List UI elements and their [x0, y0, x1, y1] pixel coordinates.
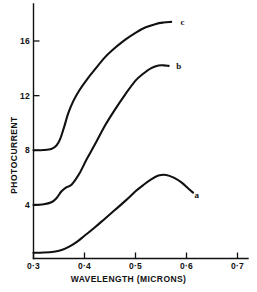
chart-axes [34, 4, 249, 259]
chart-data-curves [34, 22, 194, 253]
x-tick-label: 0·3 [27, 262, 40, 271]
x-tick-label: 0·6 [180, 262, 193, 271]
x-axis-title: WAVELENGTH (MICRONS) [0, 274, 257, 284]
y-tick-label: 16 [10, 37, 30, 46]
y-axis-title: PHOTOCURRENT [9, 95, 19, 215]
x-tick-label: 0·7 [231, 262, 244, 271]
curve-b [34, 65, 169, 205]
x-tick-label: 0·5 [129, 262, 142, 271]
curve-label-b: b [176, 61, 181, 70]
curve-label-a: a [194, 191, 199, 200]
chart-plot-area [0, 0, 257, 292]
x-tick-label: 0·4 [78, 262, 91, 271]
x-axis-ticks [34, 253, 238, 259]
y-axis-ticks [34, 41, 40, 205]
curve-label-c: c [180, 17, 184, 26]
curve-a [34, 175, 194, 253]
photocurrent-vs-wavelength-chart: 0·30·40·50·60·7 481216 abc WAVELENGTH (M… [0, 0, 257, 292]
